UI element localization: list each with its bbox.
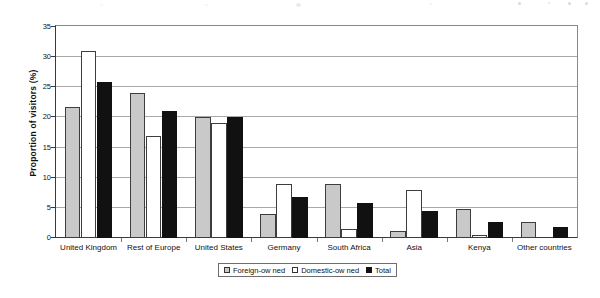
x-tick-label: United States: [195, 243, 243, 252]
bar-total: [357, 203, 373, 238]
bar-foreign: [390, 231, 406, 238]
legend-swatch-foreign: [224, 267, 230, 273]
x-tick-label: Asia: [406, 243, 422, 252]
bar-total: [227, 117, 243, 238]
bar-group: [195, 26, 243, 238]
bar-domestic: [81, 51, 97, 238]
legend-swatch-domestic: [292, 267, 298, 273]
bar-domestic: [276, 184, 292, 238]
bar-group: [260, 26, 308, 238]
bar-group: [130, 26, 178, 238]
x-tick-label: Other countries: [517, 243, 572, 252]
bar-total: [488, 222, 504, 238]
bar-foreign: [65, 107, 81, 238]
legend-label: Domestic-ow ned: [301, 266, 359, 275]
y-tick-label: 0: [11, 233, 51, 242]
x-tick-separator: [251, 238, 252, 242]
y-tick-label: 25: [11, 82, 51, 91]
y-tick-label: 15: [11, 142, 51, 151]
x-tick-separator: [317, 238, 318, 242]
bar-foreign: [521, 222, 537, 238]
x-tick-separator: [382, 238, 383, 242]
bar-total: [422, 211, 438, 238]
bar-domestic: [406, 190, 422, 238]
x-tick-separator: [447, 238, 448, 242]
legend-item: Total: [366, 266, 391, 275]
legend-label: Total: [375, 266, 391, 275]
bar-foreign: [456, 209, 472, 238]
y-tick-label: 30: [11, 52, 51, 61]
bar-group: [65, 26, 113, 238]
legend-item: Domestic-ow ned: [292, 266, 359, 275]
bar-domestic: [146, 136, 162, 238]
bar-total: [162, 111, 178, 238]
bar-total: [292, 197, 308, 238]
bar-group: [325, 26, 373, 238]
bar-group: [521, 26, 569, 238]
x-tick-separator: [121, 238, 122, 242]
bar-total: [553, 227, 569, 238]
y-tick-mark: [51, 86, 55, 87]
bar-domestic: [211, 123, 227, 238]
bar-domestic: [472, 235, 488, 238]
x-tick-separator: [186, 238, 187, 242]
y-tick-mark: [51, 26, 55, 27]
y-tick-mark: [51, 116, 55, 117]
y-tick-mark: [51, 56, 55, 57]
x-tick-label: United Kingdom: [60, 243, 117, 252]
legend-item: Foreign-ow ned: [224, 266, 285, 275]
bar-foreign: [325, 184, 341, 238]
y-tick-label: 20: [11, 112, 51, 121]
bar-group: [456, 26, 504, 238]
x-tick-label: Kenya: [468, 243, 491, 252]
x-tick-label: Rest of Europe: [127, 243, 180, 252]
chart-legend: Foreign-ow nedDomestic-ow nedTotal: [218, 263, 397, 277]
x-tick-separator: [512, 238, 513, 242]
y-tick-mark: [51, 147, 55, 148]
legend-swatch-total: [366, 267, 372, 273]
bar-foreign: [130, 93, 146, 238]
bar-chart: Proportion of visitors (%) 0510152025303…: [0, 0, 600, 298]
x-tick-label: Germany: [267, 243, 300, 252]
bar-foreign: [260, 214, 276, 238]
bar-total: [97, 82, 113, 238]
x-tick-label: South Africa: [327, 243, 370, 252]
bar-foreign: [195, 117, 211, 238]
y-tick-label: 10: [11, 172, 51, 181]
y-tick-mark: [51, 177, 55, 178]
bar-domestic: [341, 229, 357, 238]
legend-label: Foreign-ow ned: [233, 266, 285, 275]
y-tick-label: 5: [11, 202, 51, 211]
bar-series-layer: [56, 26, 577, 238]
y-tick-mark: [51, 207, 55, 208]
y-tick-label: 35: [11, 22, 51, 31]
bar-group: [390, 26, 438, 238]
y-tick-mark: [51, 237, 55, 238]
